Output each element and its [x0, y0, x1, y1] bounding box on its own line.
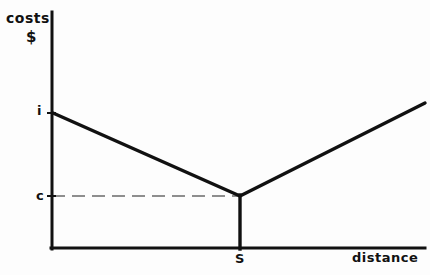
y-axis-label: costs — [6, 10, 50, 26]
cost-curve-descending-segment — [53, 113, 240, 196]
cost-distance-chart: costs $ distance i c S — [0, 0, 430, 275]
x-tick-label-optimum: S — [235, 251, 245, 266]
cost-curve-ascending-segment — [240, 103, 425, 196]
x-axis-label: distance — [352, 250, 418, 265]
y-axis-unit-label: $ — [26, 28, 37, 46]
y-tick-label-minimum: c — [36, 188, 44, 203]
chart-canvas — [0, 0, 430, 275]
y-tick-label-intercept: i — [37, 103, 42, 118]
